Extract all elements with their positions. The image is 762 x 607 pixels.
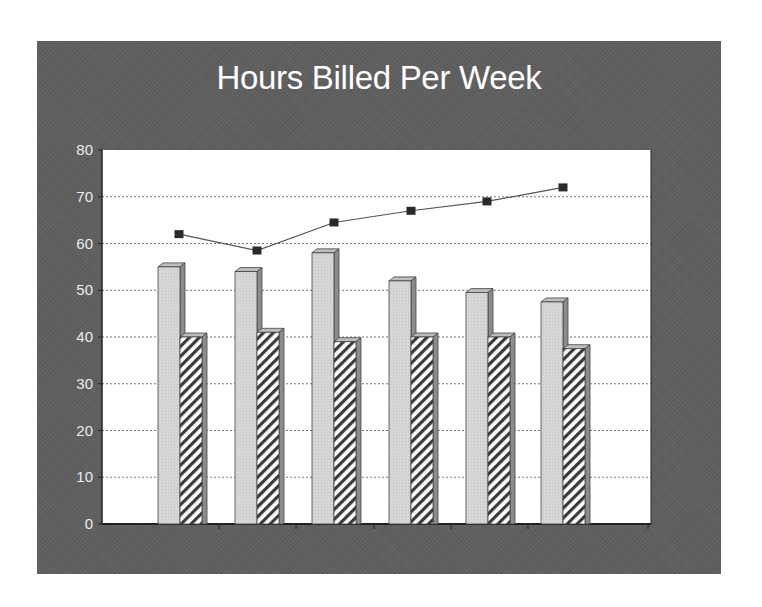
line-marker xyxy=(483,197,492,205)
y-tick-label: 30 xyxy=(76,375,93,392)
chart-svg: 01020304050607080 xyxy=(0,0,762,607)
y-tick-label: 60 xyxy=(76,235,93,252)
bar-solid xyxy=(312,253,334,524)
y-tick-label: 0 xyxy=(85,515,93,532)
line-marker xyxy=(330,218,339,226)
y-tick-label: 80 xyxy=(76,141,93,158)
bar-hatched xyxy=(488,337,510,524)
bar-side xyxy=(279,328,284,524)
line-marker xyxy=(175,230,184,238)
line-marker xyxy=(407,207,416,215)
bar-hatched xyxy=(334,342,356,524)
y-tick-label: 10 xyxy=(76,468,93,485)
y-tick-label: 20 xyxy=(76,422,93,439)
bar-side xyxy=(585,345,590,524)
bar-solid xyxy=(541,302,563,524)
bar-side xyxy=(356,338,361,524)
bar-side xyxy=(510,333,515,524)
bar-side xyxy=(433,333,438,524)
y-tick-label: 40 xyxy=(76,328,93,345)
bar-solid xyxy=(235,272,257,524)
bar-hatched xyxy=(180,337,202,524)
bar-hatched xyxy=(411,337,433,524)
y-tick-label: 70 xyxy=(76,188,93,205)
bar-solid xyxy=(158,267,180,524)
bar-hatched xyxy=(563,349,585,524)
bar-solid xyxy=(466,293,488,524)
line-marker xyxy=(253,247,262,255)
plot-area: 01020304050607080 xyxy=(76,141,651,532)
bar-hatched xyxy=(257,332,279,524)
y-tick-label: 50 xyxy=(76,281,93,298)
line-marker xyxy=(559,183,568,191)
bar-solid xyxy=(389,281,411,524)
bar-side xyxy=(202,333,207,524)
